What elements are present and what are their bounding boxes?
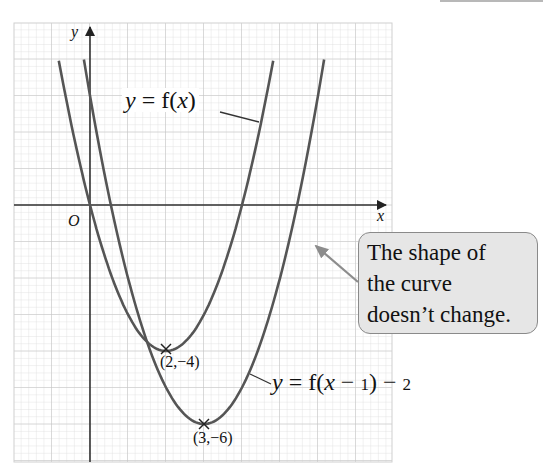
- label-g-x: x: [324, 369, 335, 395]
- label-f-x: x: [177, 87, 188, 113]
- label-g-eq: = f(: [283, 369, 325, 395]
- vertex-label-1: (2,−4): [160, 354, 200, 370]
- label-g-two: 2: [402, 375, 411, 394]
- label-f-close: ): [188, 87, 196, 113]
- label-f-eq: = f(: [136, 87, 178, 113]
- origin-label: O: [68, 213, 80, 229]
- grid: [14, 23, 392, 462]
- callout-line-1: The shape of: [367, 237, 529, 268]
- label-f-y: y: [125, 87, 136, 113]
- callout-box: The shape of the curve doesn’t change.: [358, 232, 538, 334]
- x-axis-label: x: [377, 208, 384, 224]
- label-g-close: ) −: [369, 369, 403, 395]
- callout-line-3: doesn’t change.: [367, 299, 529, 330]
- label-g-minus: −: [335, 369, 361, 395]
- y-axis-label: y: [71, 24, 78, 40]
- callout-line-2: the curve: [367, 268, 529, 299]
- vertex-label-2: (3,−6): [193, 430, 233, 446]
- curve-f-label: y = f(x): [122, 88, 199, 112]
- label-g-y: y: [272, 369, 283, 395]
- curve-g-label: y = f(x − 1) − 2: [272, 370, 411, 394]
- label-g-one: 1: [360, 375, 369, 394]
